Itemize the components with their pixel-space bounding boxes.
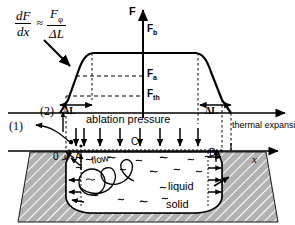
point-c-label: C [131,137,138,147]
equation-numerator-right: Fφ [48,7,65,25]
liquid-label: liquid [168,181,194,192]
equation-numerator-subscript: φ [58,14,63,24]
ablation-pressure-diagram: dF dx ≈ Fφ ΔL F x Fb Fa Fth ΔL ΔL (1) (2… [0,0,295,225]
force-level-fb: Fb [147,24,157,36]
ablation-pressure-label: ablation pressure [86,114,170,125]
force-profile-curve [60,53,231,113]
force-level-fa: Fa [147,69,157,81]
delta-l-left-label: ΔL [63,106,76,116]
solid-label: solid [166,199,189,210]
approx-symbol: ≈ [35,16,44,31]
delta-l-right-label: ΔL [205,106,218,116]
gradient-equation: dF dx ≈ Fφ ΔL [14,7,66,41]
f-axis-label: F [129,6,136,17]
equation-numerator-left: dF [14,9,32,24]
equation-leader-arrow [44,40,70,66]
equation-right-fraction: Fφ ΔL [47,7,66,41]
region-one-label: (1) [9,120,23,132]
point-a-label: A [75,152,82,162]
liquid-label-leader [160,187,166,188]
region-one-leader [36,125,72,144]
point-b-label: B [209,148,216,158]
force-level-fth: Fth [147,89,160,101]
region-two-label: (2) [40,105,54,117]
thermal-expansion-label: thermal expansion [232,121,295,130]
angle-phi-label: φ [64,152,70,162]
equation-left-fraction: dF dx [14,9,32,39]
force-level-guides [66,76,143,96]
melt-pool-cavity [66,152,222,213]
origin-label: 0 [53,152,59,162]
x-axis-label: x [252,154,257,165]
equation-denominator-left: dx [15,23,31,39]
equation-denominator-right: ΔL [47,25,66,41]
